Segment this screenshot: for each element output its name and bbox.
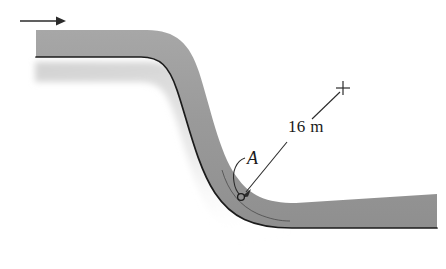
figure-canvas: 16 m A bbox=[0, 0, 446, 269]
channel-diagram-svg bbox=[0, 0, 446, 269]
circle-point-icon bbox=[238, 194, 245, 201]
radius-leader-line bbox=[240, 92, 340, 198]
cross-mark-icon bbox=[336, 81, 350, 95]
radius-dimension-label: 16 m bbox=[288, 117, 324, 137]
point-a-label: A bbox=[247, 148, 258, 169]
flow-arrow-icon bbox=[20, 17, 66, 26]
